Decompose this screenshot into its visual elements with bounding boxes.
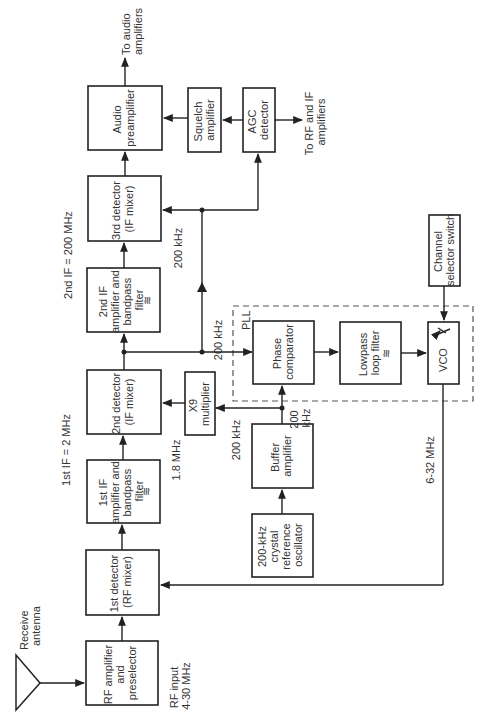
first-if-frequency-label: 1st IF = 2 MHz <box>60 414 72 486</box>
second-detector-block: 2nd detector (IF mixer) <box>87 370 161 434</box>
svg-text:Buffer amplifier: Buffer amplifier <box>269 435 293 477</box>
svg-text:2nd detector (IF mixer): 2nd detector (IF mixer) <box>110 370 135 434</box>
svg-text:3rd detector (IF mixer): 3rd detector (IF mixer) <box>110 178 135 240</box>
bandpass-filter-icon: ≋ <box>141 296 153 305</box>
svg-text:Squelch amplifier: Squelch amplifier <box>192 99 216 142</box>
first-detector-block: 1st detector (RF mixer) <box>86 550 159 615</box>
antenna-icon <box>16 655 40 710</box>
x9-multiplier-block: X9 multiplier <box>185 372 215 435</box>
buffer-amplifier-block: Buffer amplifier <box>252 424 313 488</box>
rf-amplifier-block: RF amplifier and preselector <box>86 641 158 705</box>
to-rf-if-amplifiers-label: To RF and IF amplifiers <box>303 89 327 156</box>
to-audio-amplifiers-label: To audio amplifiers <box>120 7 144 55</box>
second-if-amplifier-block: 2nd IF amplifier and bandpass filter ≋ <box>87 267 160 333</box>
channel-selector-switch-block: Channel selector switch <box>429 214 460 286</box>
bandpass-filter-icon: ≋ <box>140 487 152 496</box>
x9-output-freq-label: 1.8 MHz <box>170 440 182 481</box>
svg-text:Lowpass loop filter: Lowpass loop filter <box>357 330 381 376</box>
pll-label: PLL <box>240 310 252 330</box>
lowpass-filter-icon: ≋ <box>380 349 392 358</box>
lowpass-loop-filter-block: Lowpass loop filter ≋ <box>340 322 401 384</box>
antenna-label: Receive antenna <box>18 605 42 650</box>
third-detector-block: 3rd detector (IF mixer) <box>88 176 161 241</box>
agc-detector-block: AGC detector <box>243 88 275 152</box>
buffer-output-freq-label: 200 kHz <box>288 407 312 428</box>
svg-text:1st detector (RF mixer): 1st detector (RF mixer) <box>108 552 133 613</box>
squelch-amplifier-block: Squelch amplifier <box>188 88 221 152</box>
receiver-block-diagram: Receive antenna RF amplifier and presele… <box>0 0 494 727</box>
vco-block: VCO <box>428 322 459 384</box>
audio-preamplifier-block: Audio preamplifier <box>88 86 162 150</box>
crystal-oscillator-block: 200-kHz crystal reference oscillator <box>252 514 313 577</box>
rf-input-label: RF input 4-30 MHz <box>168 662 192 710</box>
first-if-amplifier-block: 1st IF amplifier and bandpass filter ≋ <box>87 458 160 524</box>
phase-comparator-block: Phase comparator <box>253 321 314 384</box>
vco-output-freq-label: 6-32 MHz <box>424 436 436 484</box>
to-third-detector-freq-label: 200 kHz <box>172 228 184 268</box>
svg-text:200-kHz crystal re: 200-kHz crystal reference oscillator <box>256 520 304 570</box>
second-if-frequency-label: 2nd IF = 200 MHz <box>62 211 74 299</box>
x9-input-freq-label: 200 kHz <box>230 420 242 460</box>
to-third-detector-low-freq-label: 200 kHz <box>212 320 224 360</box>
svg-text:VCO: VCO <box>437 348 449 372</box>
